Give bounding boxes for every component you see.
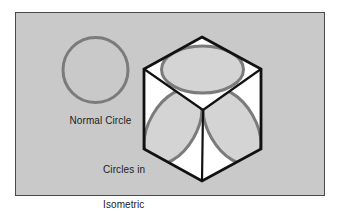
isometric-projection-diagram xyxy=(0,0,341,210)
normal-circle-label: Normal Circle xyxy=(58,103,131,138)
isometric-label-line-2: Isometric xyxy=(103,199,148,211)
isometric-projection-label: Circles in Isometric Projection xyxy=(103,141,148,210)
normal-circle-shape xyxy=(63,38,128,103)
normal-circle-label-text: Normal Circle xyxy=(70,115,132,126)
isometric-label-line-1: Circles in xyxy=(103,164,148,176)
inner-edge-vertical xyxy=(202,110,203,181)
figure-canvas: Normal Circle Circles in Isometric Proje… xyxy=(0,0,341,210)
